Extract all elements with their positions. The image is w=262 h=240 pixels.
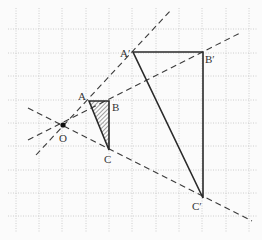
label-A: A (78, 90, 86, 102)
label-C: C (104, 153, 111, 165)
triangle-ABC (89, 101, 109, 150)
label-C-prime: C′ (192, 200, 202, 212)
label-O: O (59, 132, 67, 144)
homothety-diagram: O A B C A′ B′ C′ (0, 0, 262, 240)
triangle-A-prime-B-prime-C-prime (133, 52, 203, 198)
grid-lines (8, 8, 258, 232)
center-point-O (60, 122, 65, 127)
diagram-svg: O A B C A′ B′ C′ (0, 0, 262, 240)
label-B-prime: B′ (205, 53, 215, 65)
label-A-prime: A′ (120, 47, 130, 59)
label-B: B (112, 101, 119, 113)
